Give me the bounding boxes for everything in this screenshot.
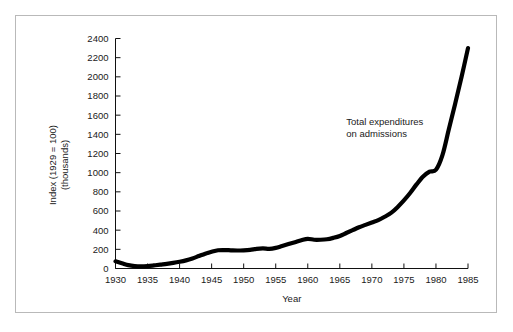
x-tick-label: 1945 — [201, 274, 222, 285]
x-tick-label: 1970 — [361, 274, 382, 285]
y-tick-label: 1400 — [87, 129, 108, 140]
x-tick-label: 1985 — [457, 274, 478, 285]
x-tick-label: 1960 — [297, 274, 318, 285]
y-tick-label: 200 — [93, 244, 109, 255]
series-annotation-line2: on admissions — [346, 128, 407, 139]
series-annotation-line1: Total expenditures — [346, 116, 423, 127]
y-tick-label: 2000 — [87, 71, 108, 82]
x-tick-label: 1935 — [137, 274, 158, 285]
y-tick-label: 1000 — [87, 167, 108, 178]
x-tick-label: 1955 — [265, 274, 286, 285]
x-tick-label: 1930 — [105, 274, 126, 285]
y-axis — [116, 39, 121, 269]
y-tick-label: 2200 — [87, 52, 108, 63]
y-tick-label: 1200 — [87, 148, 108, 159]
x-tick-label: 1940 — [169, 274, 190, 285]
figure-container: 0200400600800100012001400160018002000220… — [0, 0, 513, 332]
x-tick-label: 1950 — [233, 274, 254, 285]
y-axis-title-line2: (thousands) — [59, 140, 70, 190]
y-tick-label: 1600 — [87, 110, 108, 121]
x-tick-label: 1980 — [425, 274, 446, 285]
y-tick-labels: 0200400600800100012001400160018002000220… — [87, 33, 108, 274]
y-axis-title-line1: Index (1929 = 100) — [47, 125, 58, 205]
chart-canvas: 0200400600800100012001400160018002000220… — [0, 0, 513, 332]
y-tick-label: 1800 — [87, 90, 108, 101]
x-tick-label: 1975 — [393, 274, 414, 285]
y-tick-label: 0 — [103, 263, 108, 274]
data-series-line — [116, 48, 469, 266]
x-tick-labels: 1930193519401945195019551960196519701975… — [105, 274, 479, 285]
y-tick-label: 2400 — [87, 33, 108, 44]
y-tick-label: 800 — [93, 186, 109, 197]
x-tick-label: 1965 — [329, 274, 350, 285]
x-axis-title: Year — [282, 293, 301, 304]
y-tick-label: 400 — [93, 225, 109, 236]
y-tick-label: 600 — [93, 205, 109, 216]
